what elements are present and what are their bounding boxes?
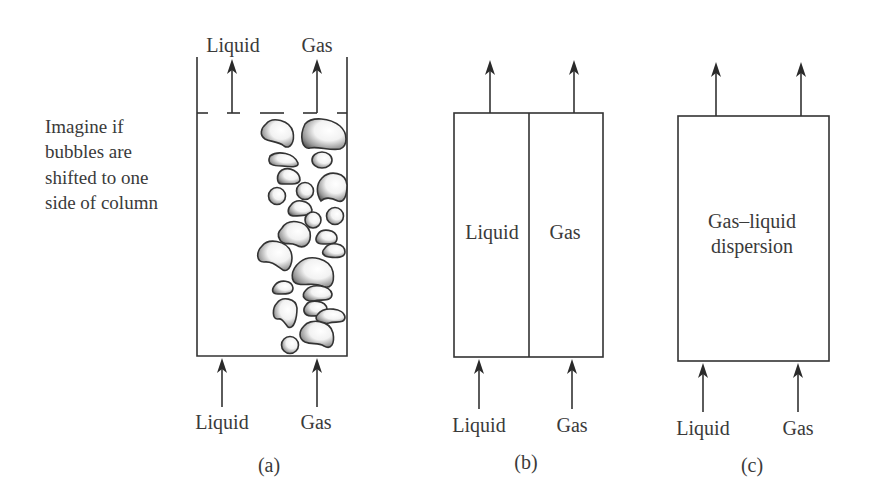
note-line: bubbles are xyxy=(45,141,132,162)
panel-b: Liquid Gas Liquid Gas (b) xyxy=(452,60,603,474)
panel-caption: (b) xyxy=(514,451,537,474)
gas-outlet-arrow-icon xyxy=(312,59,322,113)
gas-outlet-arrow-icon xyxy=(796,62,806,116)
liquid-inlet-label: Liquid xyxy=(195,411,248,434)
gas-zone-label: Gas xyxy=(549,221,580,243)
gas-inlet-arrow-icon xyxy=(312,358,322,407)
dispersion-label-line: dispersion xyxy=(711,235,793,258)
note-line: shifted to one xyxy=(45,167,148,188)
liquid-inlet-label: Liquid xyxy=(676,417,729,440)
side-note: Imagine if bubbles are shifted to one si… xyxy=(45,116,158,213)
panel-c: Gas–liquid dispersion Liquid Gas (c) xyxy=(676,62,829,477)
liquid-inlet-arrow-icon xyxy=(698,363,708,412)
gas-inlet-label: Gas xyxy=(556,414,587,436)
liquid-inlet-label: Liquid xyxy=(452,414,505,437)
liquid-zone-label: Liquid xyxy=(465,221,518,244)
column-models-diagram: Imagine if bubbles are shifted to one si… xyxy=(0,0,872,499)
liquid-outlet-arrow-icon xyxy=(227,59,237,113)
dispersion-label-line: Gas–liquid xyxy=(708,210,796,233)
liquid-outlet-arrow-icon xyxy=(485,60,495,113)
gas-outlet-label: Gas xyxy=(301,34,332,56)
gas-inlet-arrow-icon xyxy=(567,359,577,409)
panel-caption: (c) xyxy=(741,454,763,477)
figure-canvas: Imagine if bubbles are shifted to one si… xyxy=(0,0,872,499)
liquid-outlet-arrow-icon xyxy=(711,62,721,116)
liquid-outlet-label: Liquid xyxy=(206,34,259,57)
gas-inlet-arrow-icon xyxy=(793,363,803,412)
panel-caption: (a) xyxy=(258,454,280,477)
gas-outlet-arrow-icon xyxy=(569,60,579,113)
note-line: side of column xyxy=(45,192,158,213)
gas-inlet-label: Gas xyxy=(782,417,813,439)
gas-bubbles xyxy=(258,119,347,354)
gas-inlet-label: Gas xyxy=(300,411,331,433)
liquid-inlet-arrow-icon xyxy=(474,359,484,409)
liquid-inlet-arrow-icon xyxy=(217,358,227,407)
note-line: Imagine if xyxy=(45,116,124,137)
panel-a: Liquid Gas xyxy=(195,34,347,477)
